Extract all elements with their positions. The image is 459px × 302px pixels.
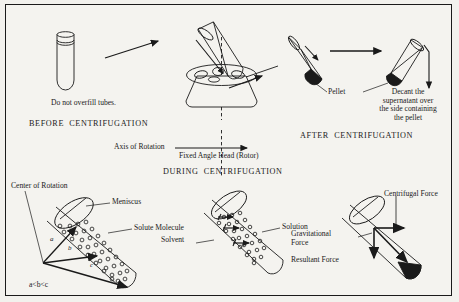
caption-before: BEFORE CENTRIFUGATION	[29, 119, 148, 128]
center-of-rotation-label: Center of Rotation	[11, 182, 68, 191]
vector-b-label: b	[68, 245, 72, 253]
pellet-label: Pellet	[328, 88, 345, 97]
gravitational-force-label: Gravitational Force	[291, 230, 331, 247]
solvent-label: Solvent	[161, 236, 184, 245]
decant-label: Decant the supernatant over the side con…	[362, 88, 454, 122]
figure-canvas: Do not overfill tubes. BEFORE CENTRIFUGA…	[0, 0, 459, 302]
solute-molecule-label: Solute Molecule	[134, 224, 184, 233]
before-tube	[57, 32, 74, 90]
caption-after: AFTER CENTRIFUGATION	[300, 131, 413, 140]
centrifugal-force-label: Centrifugal Force	[384, 190, 438, 199]
caption-during: DURING CENTRIFUGATION	[163, 167, 283, 176]
during-right-tube	[342, 191, 421, 279]
overfill-note: Do not overfill tubes.	[51, 99, 116, 108]
inequality-label: a<b<c	[29, 281, 48, 290]
vector-c-label: c	[90, 262, 93, 270]
meniscus-label: Meniscus	[112, 198, 141, 207]
after-pellet-tube	[287, 35, 322, 85]
vector-a-label: a	[50, 236, 54, 244]
resultant-force-label: Resultant Force	[291, 256, 339, 265]
decant-tube	[386, 37, 429, 88]
axis-of-rotation-label: Axis of Rotation	[114, 143, 165, 152]
during-middle-tube	[196, 186, 283, 274]
rotor-label: Fixed Angle Head (Rotor)	[179, 152, 259, 161]
